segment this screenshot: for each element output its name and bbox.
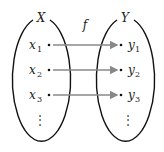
- codomain-element-subscript: 2: [135, 70, 140, 79]
- domain-element-subscript: 3: [37, 95, 42, 104]
- codomain-element-subscript: 1: [135, 45, 140, 54]
- domain-element-subscript: 1: [37, 45, 42, 54]
- codomain-label: Y: [121, 11, 130, 25]
- domain-label: X: [36, 11, 46, 25]
- domain-element-label: x: [29, 38, 36, 52]
- domain-element-label: x: [29, 63, 36, 77]
- codomain-point: [120, 69, 123, 72]
- codomain-element-label: y: [127, 88, 135, 102]
- domain-ellipsis: ⋮: [34, 113, 46, 127]
- domain-point: [48, 44, 51, 47]
- codomain-point: [120, 44, 123, 47]
- codomain-element-subscript: 3: [135, 95, 140, 104]
- mapping-row: x 1 y 1: [29, 38, 140, 54]
- domain-element-subscript: 2: [37, 70, 42, 79]
- domain-point: [48, 69, 51, 72]
- domain-element-label: x: [29, 88, 36, 102]
- function-label: f: [82, 18, 90, 32]
- codomain-point: [120, 94, 123, 97]
- codomain-element-label: y: [127, 63, 135, 77]
- mapping-row: x 3 y 3: [29, 88, 140, 104]
- function-mapping-diagram: X Y f x 1 y 1 x 2 y 2 x 3 y 3 ⋮ ⋮: [0, 0, 164, 152]
- mapping-row: x 2 y 2: [29, 63, 140, 79]
- codomain-element-label: y: [127, 38, 135, 52]
- codomain-ellipsis: ⋮: [122, 113, 134, 127]
- domain-point: [48, 94, 51, 97]
